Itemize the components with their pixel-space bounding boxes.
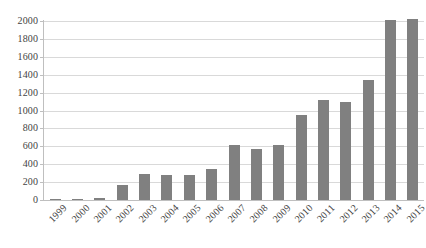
bar xyxy=(296,115,307,200)
bar xyxy=(139,174,150,200)
bar xyxy=(94,198,105,200)
bar-chart: 0200400600800100012001400160018002000 19… xyxy=(0,0,426,248)
bar xyxy=(117,185,128,200)
y-axis-tick-marks xyxy=(0,0,44,248)
bar xyxy=(206,169,217,200)
bar xyxy=(50,199,61,200)
plot-area xyxy=(44,21,424,200)
bar xyxy=(318,100,329,200)
bar xyxy=(273,145,284,200)
bar xyxy=(229,145,240,200)
bar xyxy=(363,80,374,200)
bar xyxy=(72,199,83,200)
gridline xyxy=(44,200,424,201)
bar xyxy=(340,102,351,200)
bar xyxy=(251,149,262,200)
bars xyxy=(44,21,424,200)
x-axis: 1999200020012002200320042005200620072008… xyxy=(44,202,424,248)
bar xyxy=(407,19,418,200)
bar xyxy=(184,175,195,201)
bar xyxy=(161,175,172,201)
bar xyxy=(385,20,396,200)
